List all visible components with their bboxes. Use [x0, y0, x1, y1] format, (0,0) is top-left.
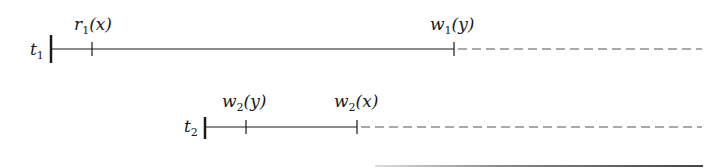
t1-label: t1: [30, 39, 44, 62]
w2x-label: w2(x): [334, 91, 378, 114]
timeline-diagram: t1 r1(x) w1(y) t2 w2(y) w2(x): [0, 0, 725, 168]
t2-label: t2: [184, 116, 198, 139]
r1x-label: r1(x): [74, 14, 112, 37]
timeline-t1: t1 r1(x) w1(y): [30, 14, 702, 63]
timeline-t2: t2 w2(y) w2(x): [184, 91, 702, 139]
w1y-label: w1(y): [430, 14, 474, 37]
bottom-rule: [375, 165, 703, 167]
w2y-label: w2(y): [222, 91, 266, 114]
